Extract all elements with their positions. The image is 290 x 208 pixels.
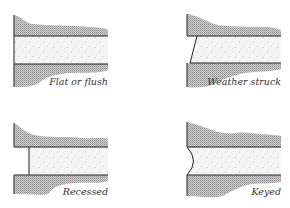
upper-brick xyxy=(14,123,108,147)
panel-recessed xyxy=(14,123,108,195)
upper-brick xyxy=(187,122,281,147)
label-recessed: Recessed xyxy=(63,187,108,197)
label-keyed: Keyed xyxy=(251,187,281,197)
upper-brick xyxy=(14,15,108,36)
upper-brick xyxy=(187,14,281,36)
mortar-joint xyxy=(29,147,108,175)
mortar-joint xyxy=(190,36,281,63)
mortar-joint xyxy=(14,36,108,64)
mortar-joint xyxy=(187,147,281,175)
label-flat-or-flush: Flat or flush xyxy=(49,77,108,87)
mortar-joints-diagram xyxy=(0,0,290,208)
label-weather-struck: Weather struck xyxy=(207,77,281,87)
